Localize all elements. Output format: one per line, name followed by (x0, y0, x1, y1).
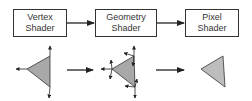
normal-arrow (49, 87, 50, 98)
pixel-shader-label-line2: Shader (197, 23, 226, 34)
pixel-shader-box: Pixel Shader (185, 9, 239, 37)
pixel-triangle (201, 56, 225, 87)
normal-arrow (135, 79, 137, 87)
vertex-shader-box: Vertex Shader (13, 9, 67, 37)
geometry-shader-label-line2: Shader (111, 23, 140, 34)
geometry-triangle (101, 46, 137, 98)
geometry-shader-label-line1: Geometry (106, 12, 146, 23)
normal-arrow (110, 69, 112, 79)
pixel-shader-label-line1: Pixel (202, 12, 222, 23)
geometry-shader-box: Geometry Shader (95, 9, 157, 37)
vertex-shader-label-line2: Shader (25, 23, 54, 34)
vertex-triangle (16, 46, 50, 98)
normal-arrow (124, 53, 134, 56)
vertex-shader-label-line1: Vertex (27, 12, 53, 23)
normal-arrow (111, 60, 112, 69)
